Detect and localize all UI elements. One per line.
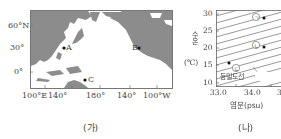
chart-ytick-30: 30 — [203, 9, 213, 18]
map-ytick-0: 0° — [14, 67, 23, 76]
map-xtick-100w: 100°W — [143, 91, 171, 100]
chart-caption: (나) — [238, 121, 253, 134]
point-a-label: A — [66, 43, 72, 52]
point-b-label: B — [132, 43, 138, 52]
map-panel: A B C 60°N 30° 0° 100°E 140° 180° 140° 1… — [0, 0, 180, 139]
pacific-map — [30, 10, 173, 89]
chart-ytick-15: 15 — [203, 60, 213, 69]
isopycnal-label: 등밀도선 — [220, 71, 244, 81]
map-ytick-30: 30° — [10, 43, 24, 52]
map-xtick-100e: 100°E — [22, 91, 47, 100]
point-c-label: C — [88, 75, 94, 84]
point-giyeok: ㄱ — [252, 13, 265, 20]
map-caption: (가) — [83, 121, 98, 134]
map-xtick-180: 180° — [86, 91, 105, 100]
svg-text:ㄱ: ㄱ — [254, 15, 259, 21]
chart-xlabel: 염분(psu) — [230, 99, 263, 110]
point-c — [83, 78, 86, 81]
chart-ylabel-line2: (℃) — [184, 58, 198, 67]
chart-xtick-34: 34.0 — [244, 88, 261, 97]
chart-ytick-10: 10 — [203, 78, 213, 87]
map-ytick-60n: 60°N — [8, 21, 29, 30]
map-xtick-140w: 140° — [117, 91, 136, 100]
chart-xtick-35: 3 — [277, 88, 281, 97]
chart-ylabel-line1: 수온 — [189, 31, 199, 45]
map-xtick-140e: 140° — [48, 91, 67, 100]
chart-ytick-20: 20 — [203, 43, 213, 52]
chart-xtick-33: 33.0 — [210, 88, 227, 97]
svg-text:ㄴ: ㄴ — [254, 43, 259, 49]
ts-diagram-panel: ㄱ ㄴ ㄷ 등밀도선 30 25 20 15 10 수온 (℃) 33.0 34… — [180, 0, 281, 139]
chart-ytick-25: 25 — [203, 26, 213, 35]
